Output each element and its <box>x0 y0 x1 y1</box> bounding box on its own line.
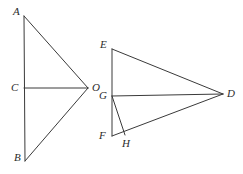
vertex-label-D: D <box>227 88 235 99</box>
vertex-label-B: B <box>14 152 21 163</box>
segment-AO <box>24 16 88 88</box>
segment-GH <box>112 96 125 135</box>
left-triangle-group <box>24 16 88 161</box>
right-triangle-group <box>112 49 223 136</box>
vertex-label-C: C <box>11 82 18 93</box>
vertex-label-E: E <box>100 39 107 50</box>
vertex-label-G: G <box>99 90 107 101</box>
vertex-label-H: H <box>122 138 130 149</box>
segment-ED <box>112 49 223 94</box>
segment-OB <box>25 88 88 161</box>
vertex-label-A: A <box>13 6 20 17</box>
vertex-label-F: F <box>99 130 106 141</box>
segment-FD <box>112 94 223 136</box>
segment-GD <box>112 94 223 96</box>
figure-canvas: A C O B E G F H D <box>0 0 243 174</box>
